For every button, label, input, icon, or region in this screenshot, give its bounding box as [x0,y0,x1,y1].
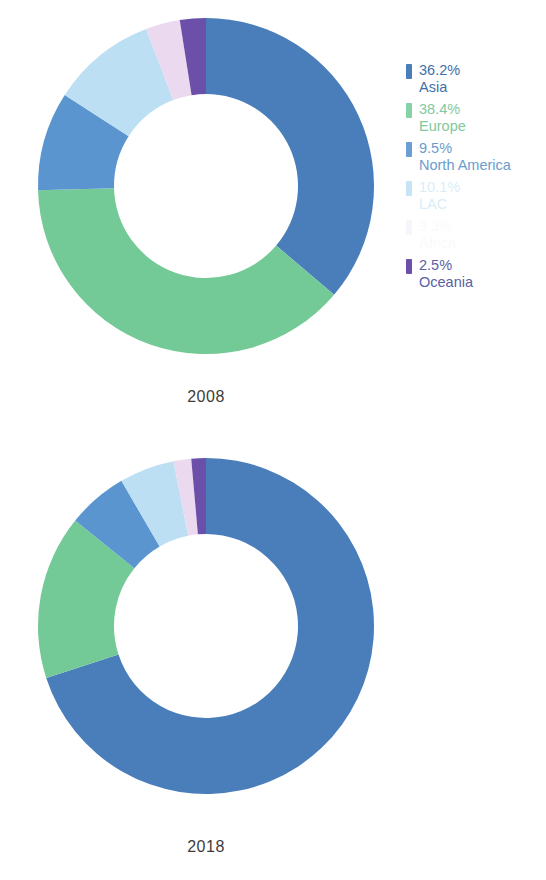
legend-percent-europe: 38.4% [419,101,466,118]
legend-name-lac: LAC [419,196,460,213]
donut-chart-2008 [36,8,376,364]
legend-percent-asia: 36.2% [419,62,460,79]
legend-swatch-icon-europe [406,103,412,118]
legend-text-north-america: 9.5%North America [419,140,511,174]
donut-svg-2018 [36,448,376,804]
legend-name-north-america: North America [419,157,511,174]
legend-swatch-icon-africa [406,220,412,235]
legend-text-oceania: 2.5%Oceania [419,257,473,291]
legend-percent-oceania: 2.5% [419,257,473,274]
legend-text-lac: 10.1%LAC [419,179,460,213]
legend-item-oceania: 2.5%Oceania [406,257,546,291]
legend-name-africa: Africa [419,235,456,252]
legend-item-europe: 38.4%Europe [406,101,546,135]
donut-slices [38,458,374,794]
year-label-2008: 2008 [36,388,376,406]
legend-name-europe: Europe [419,118,466,135]
legend-name-asia: Asia [419,79,460,96]
year-label-2018: 2018 [36,838,376,856]
legend-text-africa: 3.3%Africa [419,218,456,252]
chart-panel-2008: 2008 36.2%Asia38.4%Europe9.5%North Ameri… [0,0,546,440]
legend-name-oceania: Oceania [419,274,473,291]
legend-item-lac: 10.1%LAC [406,179,546,213]
legend-text-asia: 36.2%Asia [419,62,460,96]
legend-item-africa: 3.3%Africa [406,218,546,252]
chart-panel-2018: 2018 70.0%Asia15.8%Europe5.8%North Ameri… [0,440,546,880]
donut-chart-2018 [36,448,376,804]
legend-percent-lac: 10.1% [419,179,460,196]
donut-slices [38,18,374,354]
legend-swatch-icon-oceania [406,259,412,274]
donut-slice-europe [38,188,334,354]
legend-swatch-icon-asia [406,64,412,79]
donut-svg-2008 [36,8,376,364]
legend-percent-north-america: 9.5% [419,140,511,157]
legend-item-asia: 36.2%Asia [406,62,546,96]
legend-swatch-icon-lac [406,181,412,196]
legend-item-north-america: 9.5%North America [406,140,546,174]
legend-2008: 36.2%Asia38.4%Europe9.5%North America10.… [406,62,546,296]
legend-text-europe: 38.4%Europe [419,101,466,135]
legend-percent-africa: 3.3% [419,218,456,235]
legend-swatch-icon-north-america [406,142,412,157]
donut-slice-asia [206,18,374,295]
